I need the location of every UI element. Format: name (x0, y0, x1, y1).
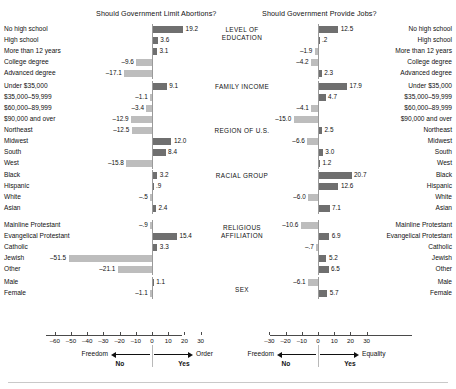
bar-positive (318, 94, 326, 100)
bar-positive (318, 183, 338, 189)
group-jobs-0: No high school12.5High school.2More than… (246, 24, 456, 79)
table-row: Hispanic12.6 (246, 181, 456, 192)
legend-left-answer: No (282, 360, 291, 367)
table-row: No high school12.5 (246, 24, 456, 35)
bar-value-label: 20.7 (354, 171, 366, 179)
table-row: Catholic3.3 (0, 242, 210, 253)
legend-left-word: Freedom (248, 350, 274, 357)
bar-positive (152, 138, 171, 144)
bar-negative (308, 279, 318, 285)
bar-positive (318, 233, 329, 239)
table-row: Advanced degree2.3 (246, 68, 456, 79)
table-row: $60,000–89,999–3.4 (0, 103, 210, 114)
bar-value-label: –4.1 (296, 104, 308, 112)
row-label: White (4, 193, 21, 201)
axis-tick-label: 30 (357, 337, 377, 345)
left-arrow-head-icon (111, 352, 116, 358)
left-arrow-line (116, 354, 150, 355)
row-label: Jewish (432, 254, 452, 262)
axis-tick (367, 332, 368, 335)
table-row: Female5.7 (246, 288, 456, 299)
chart-title-right: Should Government Provide Jobs? (262, 9, 377, 18)
table-row: Jewish–51.5 (0, 253, 210, 264)
axis-tick (184, 332, 185, 335)
bar-value-label: 7.1 (332, 204, 341, 212)
bar-value-label: –1.1 (135, 93, 147, 101)
table-row: Northeast2.5 (246, 125, 456, 136)
bar-value-label: –12.9 (113, 115, 129, 123)
legend-left-word: Freedom (82, 350, 108, 357)
zero-axis-line (152, 277, 153, 299)
table-row: Jewish5.2 (246, 253, 456, 264)
legend-right-word: Order (196, 350, 213, 357)
bar-value-label: 12.5 (341, 25, 353, 33)
row-label: $90,000 and over (4, 115, 55, 123)
table-row: More than 12 years3.1 (0, 46, 210, 57)
row-label: $35,000–59,999 (404, 93, 452, 101)
row-label: Midwest (4, 137, 28, 145)
bar-value-label: –1.9 (300, 47, 312, 55)
bar-value-label: –6.0 (293, 193, 305, 201)
axis-tick (103, 332, 104, 335)
table-row: No high school19.2 (0, 24, 210, 35)
bar-value-label: 3.2 (160, 171, 169, 179)
row-label: Black (436, 171, 452, 179)
group-jobs-5: Male–6.1Female5.7 (246, 277, 456, 299)
table-row: White–.5 (0, 192, 210, 203)
right-arrow-line (154, 354, 188, 355)
row-label: Northeast (4, 126, 33, 134)
bar-positive (318, 172, 352, 178)
group-jobs-2: Northeast2.5Midwest–6.6South3.0West1.2 (246, 125, 456, 169)
bar-value-label: 1.1 (156, 278, 165, 286)
bar-value-label: 6.9 (332, 232, 341, 240)
row-label: West (437, 159, 452, 167)
row-label: College degree (4, 58, 49, 66)
table-row: Under $35,0009.1 (0, 81, 210, 92)
table-row: Black3.2 (0, 170, 210, 181)
bar-value-label: 3.0 (325, 148, 334, 156)
table-row: Male–6.1 (246, 277, 456, 288)
bar-value-label: –3.4 (132, 104, 144, 112)
zero-tick-extension (318, 345, 319, 367)
table-row: White–6.0 (246, 192, 456, 203)
table-row: Catholic–.7 (246, 242, 456, 253)
table-row: Advanced degree–17.1 (0, 68, 210, 79)
table-row: South3.0 (246, 147, 456, 158)
axis-tick (201, 332, 202, 335)
bar-negative (136, 59, 152, 65)
bar-value-label: –15.8 (108, 159, 124, 167)
bar-value-label: –12.5 (113, 126, 129, 134)
row-label: South (435, 148, 452, 156)
bar-positive (152, 83, 167, 89)
group-jobs-3: Black20.7Hispanic12.6White–6.0Asian7.1 (246, 170, 456, 214)
group-abortions-5: Male1.1Female–1.1 (0, 277, 210, 299)
bar-negative (307, 138, 318, 144)
panel-abortions: No high school19.2High school3.6More tha… (0, 24, 210, 324)
bar-value-label: –9.6 (121, 58, 133, 66)
axis-tick (71, 332, 72, 335)
row-label: Jewish (4, 254, 24, 262)
table-row: West–15.8 (0, 158, 210, 169)
table-row: Mainline Protestant–10.6 (246, 220, 456, 231)
row-label: Under $35,000 (4, 82, 48, 90)
axis-tick (302, 332, 303, 335)
table-row: Under $35,00017.9 (246, 81, 456, 92)
bar-positive (152, 233, 177, 239)
zero-axis-line (152, 220, 153, 275)
row-label: Advanced degree (400, 69, 452, 77)
bar-negative (311, 105, 318, 111)
bar-value-label: –.9 (139, 221, 148, 229)
chart-title-left: Should Government Limit Abortions? (96, 9, 216, 18)
row-label: $35,000–59,999 (4, 93, 52, 101)
table-row: $60,000–89,999–4.1 (246, 103, 456, 114)
bar-positive (152, 149, 166, 155)
row-label: White (435, 193, 452, 201)
table-row: Asian7.1 (246, 203, 456, 214)
group-abortions-0: No high school19.2High school3.6More tha… (0, 24, 210, 79)
bar-positive (318, 266, 329, 272)
bar-value-label: 3.3 (160, 243, 169, 251)
row-label: Northeast (423, 126, 452, 134)
row-label: West (4, 159, 19, 167)
legend-right-answer: Yes (344, 360, 355, 367)
row-label: Male (4, 278, 18, 286)
